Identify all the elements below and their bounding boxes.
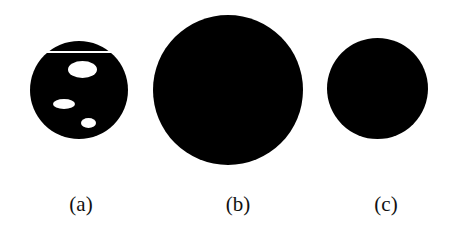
label-b: (b): [226, 192, 251, 217]
hole-large: [68, 61, 97, 78]
hole-small: [81, 118, 96, 128]
panel-a: (a): [0, 0, 458, 227]
cut-line-a: [40, 51, 119, 53]
label-c: (c): [374, 192, 397, 217]
hole-medium: [53, 99, 75, 109]
disk-b: [153, 15, 303, 165]
label-a: (a): [69, 192, 92, 217]
panel-c: (c): [0, 0, 458, 227]
panel-b: (b): [0, 0, 458, 227]
disk-a: [30, 41, 128, 139]
disk-c: [327, 38, 428, 139]
